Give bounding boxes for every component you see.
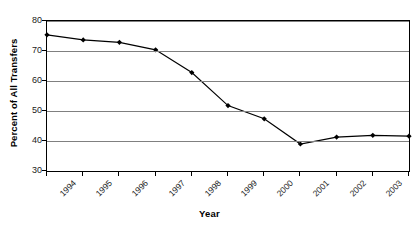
x-tick-mark-2003 [372, 172, 373, 176]
gridline-y-50 [47, 111, 409, 112]
data-series-line [47, 21, 409, 171]
y-tick-label-50: 50 [20, 106, 42, 115]
y-tick-mark-30 [42, 170, 46, 171]
x-tick-mark-2000 [263, 172, 264, 176]
x-tick-label-1999: 1999 [239, 178, 259, 198]
data-point-1996 [117, 40, 122, 45]
x-tick-label-2003: 2003 [383, 178, 403, 198]
y-tick-label-70: 70 [20, 46, 42, 55]
y-tick-mark-40 [42, 140, 46, 141]
x-tick-label-1997: 1997 [166, 178, 186, 198]
y-axis-tick-labels: 304050607080 [18, 0, 42, 227]
x-tick-mark-1998 [191, 172, 192, 176]
y-tick-mark-60 [42, 80, 46, 81]
x-tick-mark-2002 [336, 172, 337, 176]
data-point-1994 [44, 32, 49, 37]
data-point-2003 [370, 133, 375, 138]
x-tick-mark-2001 [299, 172, 300, 176]
y-tick-mark-80 [42, 20, 46, 21]
y-tick-mark-50 [42, 110, 46, 111]
x-tick-mark-1997 [155, 172, 156, 176]
data-point-1995 [81, 37, 86, 42]
x-tick-mark-2004 [408, 172, 409, 176]
x-tick-mark-1996 [118, 172, 119, 176]
x-tick-label-1994: 1994 [58, 178, 78, 198]
gridline-y-70 [47, 51, 409, 52]
line-chart-figure: Percent of All Transfers 304050607080 Ye… [0, 0, 419, 227]
x-tick-label-2000: 2000 [275, 178, 295, 198]
x-tick-mark-1999 [227, 172, 228, 176]
x-tick-mark-1994 [46, 172, 47, 176]
y-tick-mark-70 [42, 50, 46, 51]
x-tick-label-2001: 2001 [311, 178, 331, 198]
x-tick-mark-1995 [82, 172, 83, 176]
x-tick-label-1998: 1998 [202, 178, 222, 198]
gridline-y-80 [47, 21, 409, 22]
y-tick-label-40: 40 [20, 136, 42, 145]
y-tick-label-30: 30 [20, 166, 42, 175]
x-tick-label-1995: 1995 [94, 178, 114, 198]
y-tick-label-60: 60 [20, 76, 42, 85]
data-point-2004 [406, 134, 411, 139]
gridline-y-40 [47, 141, 409, 142]
plot-area [46, 20, 410, 172]
data-point-2002 [334, 135, 339, 140]
x-tick-label-2002: 2002 [347, 178, 367, 198]
x-tick-label-1996: 1996 [130, 178, 150, 198]
x-axis-title: Year [0, 208, 419, 219]
y-tick-label-80: 80 [20, 16, 42, 25]
gridline-y-60 [47, 81, 409, 82]
